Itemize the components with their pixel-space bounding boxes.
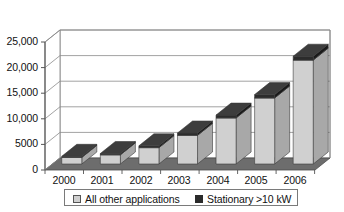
bar-column-2004 <box>216 103 251 164</box>
legend-swatch-light-gray-square <box>73 195 81 203</box>
chart-legend: All other applications Stationary >10 kW <box>64 189 298 206</box>
chart-y-tick-marks <box>41 42 45 170</box>
legend-swatch-dark-square <box>195 195 203 203</box>
bar-column-2005 <box>255 83 290 164</box>
chart-left-wall <box>45 30 60 170</box>
legend-entry-stationary-over-10kw: Stationary >10 kW <box>195 192 291 205</box>
y-tick-label-10000: 10,000 <box>0 112 38 124</box>
x-tick-label-2003: 2003 <box>159 174 199 186</box>
legend-label-stationary-over-10kw: Stationary >10 kW <box>207 193 291 205</box>
legend-entry-all-other-applications: All other applications <box>73 192 180 205</box>
x-tick-label-2001: 2001 <box>82 174 122 186</box>
x-tick-label-2002: 2002 <box>121 174 161 186</box>
y-tick-label-15000: 15,000 <box>0 86 38 98</box>
y-tick-label-0: 0 <box>0 163 38 175</box>
x-tick-label-2000: 2000 <box>44 174 84 186</box>
y-tick-label-20000: 20,000 <box>0 61 38 73</box>
chart-3d-stacked-column: 0 5000 10,000 15,000 20,000 25,000 2000 … <box>0 0 344 212</box>
bar-segment <box>293 48 328 164</box>
x-tick-label-2006: 2006 <box>275 174 315 186</box>
x-tick-label-2004: 2004 <box>198 174 238 186</box>
bar-column-2006 <box>293 44 328 164</box>
y-tick-label-25000: 25,000 <box>0 35 38 47</box>
legend-label-all-other-applications: All other applications <box>85 193 180 205</box>
x-tick-label-2005: 2005 <box>236 174 276 186</box>
y-tick-label-5000: 5000 <box>0 137 38 149</box>
